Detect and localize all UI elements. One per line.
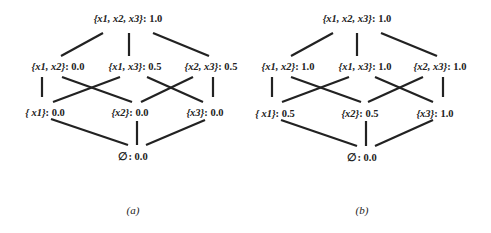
node-x2: {x2}: 0.5 <box>341 108 378 119</box>
node-x1x3: {x1, x3}: 0.5 <box>109 61 162 72</box>
node-x1: { x1}: 0.0 <box>25 107 65 118</box>
node-x3: {x3}: 0.0 <box>186 107 223 118</box>
caption-b: (b) <box>356 204 369 216</box>
node-x1x3: {x1, x3}: 1.0 <box>339 61 392 72</box>
node-x1: { x1}: 0.5 <box>255 108 295 119</box>
node-empty: ∅: 0.0 <box>118 150 147 162</box>
node-x1x2: {x1, x2}: 1.0 <box>262 61 315 72</box>
caption-a: (a) <box>127 204 140 216</box>
node-x1x2x3: {x1, x2, x3}: 1.0 <box>323 13 392 24</box>
node-x1x2x3: {x1, x2, x3}: 1.0 <box>94 13 163 24</box>
node-empty: ∅: 0.0 <box>347 151 376 163</box>
node-x2x3: {x2, x3}: 1.0 <box>414 61 467 72</box>
node-x2x3: {x2, x3}: 0.5 <box>185 61 238 72</box>
node-x3: {x3}: 1.0 <box>416 108 453 119</box>
node-x2: {x2}: 0.0 <box>111 107 148 118</box>
node-x1x2: {x1, x2}: 0.0 <box>32 61 85 72</box>
